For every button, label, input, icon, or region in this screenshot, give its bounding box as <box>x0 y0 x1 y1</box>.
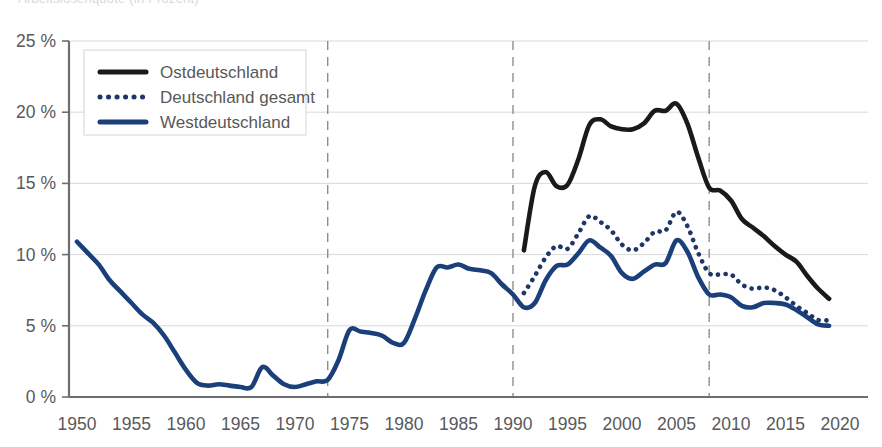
y-axis-tick-label: 10 % <box>16 245 56 265</box>
legend-label: Deutschland gesamt <box>160 88 315 107</box>
y-axis-tick-label: 15 % <box>16 173 56 193</box>
chart-svg: 0 %5 %10 %15 %20 %25 %195019551960196519… <box>0 0 882 447</box>
x-axis-tick-label: 1975 <box>330 414 369 434</box>
y-axis-tick-label: 5 % <box>26 316 56 336</box>
unemployment-rate-chart: Arbeitslosenquote (in Prozent) 0 %5 %10 … <box>0 0 882 447</box>
x-axis-tick-label: 1985 <box>439 414 478 434</box>
x-axis-tick-label: 2010 <box>712 414 751 434</box>
x-axis-tick-label: 2000 <box>603 414 642 434</box>
x-axis-tick-label: 1955 <box>112 414 151 434</box>
x-axis-tick-labels: 1950195519601965197019751980198519901995… <box>58 414 860 434</box>
x-axis-tick-label: 2015 <box>766 414 805 434</box>
event-marker-lines <box>328 41 710 397</box>
series-group <box>77 103 829 388</box>
x-axis-tick-label: 1995 <box>548 414 587 434</box>
legend-label: Ostdeutschland <box>160 63 278 82</box>
y-axis-tick-label: 25 % <box>16 31 56 51</box>
x-axis-tick-label: 1960 <box>167 414 206 434</box>
legend: OstdeutschlandDeutschland gesamtWestdeut… <box>84 50 315 135</box>
y-axis-tick-label: 0 % <box>26 387 56 407</box>
x-axis-tick-label: 1950 <box>58 414 97 434</box>
x-axis-tick-label: 2005 <box>657 414 696 434</box>
series-line-ostdeutschland <box>524 103 829 298</box>
series-line-westdeutschland <box>77 240 829 389</box>
legend-label: Westdeutschland <box>160 113 290 132</box>
x-axis-tick-label: 1970 <box>276 414 315 434</box>
x-axis-tick-label: 1980 <box>385 414 424 434</box>
x-axis-tick-label: 1990 <box>494 414 533 434</box>
x-axis-tick-label: 2020 <box>821 414 860 434</box>
x-axis-tick-label: 1965 <box>221 414 260 434</box>
chart-title-clipped: Arbeitslosenquote (in Prozent) <box>18 0 199 6</box>
y-axis-tick-label: 20 % <box>16 102 56 122</box>
